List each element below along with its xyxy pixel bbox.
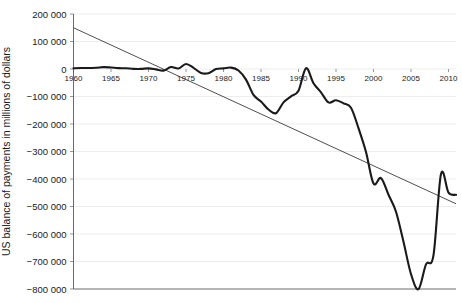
x-tick-label: 1990 bbox=[290, 74, 308, 83]
y-tick-label: −200 000 bbox=[27, 119, 67, 130]
x-tick-label: 1985 bbox=[252, 74, 270, 83]
x-tick-label: 2010 bbox=[440, 74, 458, 83]
x-tick-label: 2005 bbox=[402, 74, 420, 83]
y-tick-label: −100 000 bbox=[27, 91, 67, 102]
y-tick-label: 0 bbox=[61, 64, 66, 75]
y-tick-label: −800 000 bbox=[27, 284, 67, 295]
y-tick-label: 200 000 bbox=[32, 9, 66, 20]
trend-line bbox=[74, 28, 457, 204]
chart-plot-area: 200 000100 0000−100 000−200 000−300 000−… bbox=[0, 0, 462, 303]
x-tick-label: 1975 bbox=[177, 74, 195, 83]
y-tick-label: −300 000 bbox=[27, 146, 67, 157]
x-tick-label: 1965 bbox=[102, 74, 120, 83]
y-tick-label: −600 000 bbox=[27, 229, 67, 240]
chart-figure: US balance of payments in millions of do… bbox=[0, 0, 462, 303]
y-tick-label: −700 000 bbox=[27, 256, 67, 267]
x-tick-label: 2000 bbox=[365, 74, 383, 83]
balance-of-payments-line bbox=[74, 64, 457, 289]
y-tick-label: 100 000 bbox=[32, 36, 66, 47]
x-tick-label: 1980 bbox=[215, 74, 233, 83]
y-axis-ticks-group: 200 000100 0000−100 000−200 000−300 000−… bbox=[27, 9, 74, 295]
x-tick-label: 1995 bbox=[327, 74, 345, 83]
y-tick-label: −500 000 bbox=[27, 201, 67, 212]
x-tick-label: 1970 bbox=[140, 74, 158, 83]
y-tick-label: −400 000 bbox=[27, 174, 67, 185]
x-axis-ticks-group: 1960196519701975198019851990199520002005… bbox=[65, 69, 458, 83]
